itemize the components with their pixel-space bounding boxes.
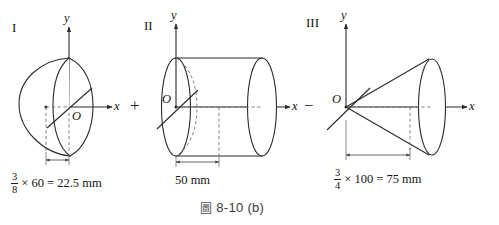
part-III-cone-group — [327, 24, 467, 160]
part-III-fraction: 3 4 — [334, 168, 341, 191]
part-I-x-axis-label: x — [114, 100, 120, 113]
part-I-roman-numeral: I — [12, 21, 16, 34]
part-I-y-axis-label: y — [64, 12, 70, 25]
figure-caption-text: 8-10 (b) — [216, 200, 264, 215]
part-II-origin-label: O — [162, 93, 171, 106]
part-III-x-axis-label: x — [469, 100, 475, 113]
part-III-dimension-expression: × 100 = 75 mm — [344, 173, 421, 186]
part-III-dimension-formula: 3 4 × 100 = 75 mm — [334, 168, 422, 191]
part-II-dimension-formula: 50 mm — [175, 174, 210, 187]
part-I-dimension-formula: 3 8 × 60 = 22.5 mm — [11, 172, 102, 195]
part-I-origin-label: O — [72, 110, 81, 123]
figure-page: I y x O 3 8 × 60 = 22.5 mm + II y x O 50… — [0, 0, 499, 225]
operator-plus: + — [130, 97, 140, 114]
part-III-fraction-numerator: 3 — [334, 168, 341, 180]
part-I-fraction: 3 8 — [11, 172, 18, 195]
part-II-x-axis-label: x — [292, 100, 298, 113]
part-III-lower-slant — [346, 107, 429, 155]
figure-caption-glyph: 圖 — [200, 199, 212, 216]
part-III-roman-numeral: III — [306, 16, 319, 29]
part-III-y-axis-label: y — [341, 9, 347, 22]
part-I-hemisphere-group — [19, 27, 112, 165]
part-I-fraction-numerator: 3 — [11, 172, 18, 184]
part-II-cylinder-group — [157, 24, 290, 167]
part-II-y-axis-label: y — [171, 9, 177, 22]
part-III-origin-label: O — [332, 93, 341, 106]
figure-caption: 圖 8-10 (b) — [200, 199, 264, 216]
part-II-roman-numeral: II — [144, 19, 153, 32]
operator-minus: − — [304, 97, 314, 114]
part-I-fraction-denominator: 8 — [11, 184, 18, 195]
part-III-fraction-denominator: 4 — [334, 180, 341, 191]
part-I-dimension-expression: × 60 = 22.5 mm — [21, 177, 101, 190]
